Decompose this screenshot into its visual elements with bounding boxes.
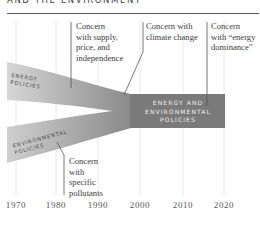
merged-policies-label: ENERGY AND ENVIRONMENTAL POLICIES (130, 99, 226, 125)
year-label-1980: 1980 (46, 200, 66, 210)
annotation-line: with (69, 167, 103, 178)
year-label-2010: 2010 (173, 200, 193, 210)
annotation-line: with “energy (211, 32, 255, 43)
annotation-pollutants: Concern with specific pollutants (69, 156, 103, 198)
year-label-1990: 1990 (88, 200, 108, 210)
annotation-line: pollutants (69, 188, 103, 199)
year-label-2000: 2000 (130, 200, 150, 210)
annotation-line: price, and (76, 42, 123, 53)
year-label-1970: 1970 (6, 200, 26, 210)
annotation-supply: Concern with supply, price, and independ… (76, 21, 123, 63)
annotation-dominance: Concern with “energy dominance” (211, 21, 255, 53)
annotation-line: specific (69, 177, 103, 188)
annotation-line: with supply, (76, 32, 123, 43)
annotation-line: Concern with (146, 21, 198, 32)
annotation-line: climate change (146, 32, 198, 43)
merged-label-line1: ENERGY AND (130, 99, 226, 108)
annotation-line: Concern (211, 21, 255, 32)
year-label-2020: 2020 (214, 200, 234, 210)
annotation-climate: Concern with climate change (146, 21, 198, 42)
annotation-line: Concern (76, 21, 123, 32)
annotation-line: Concern (69, 156, 103, 167)
merged-label-line3: POLICIES (130, 116, 226, 125)
merged-label-line2: ENVIRONMENTAL (130, 108, 226, 117)
annotation-line: dominance” (211, 42, 255, 53)
annotation-line: independence (76, 53, 123, 64)
